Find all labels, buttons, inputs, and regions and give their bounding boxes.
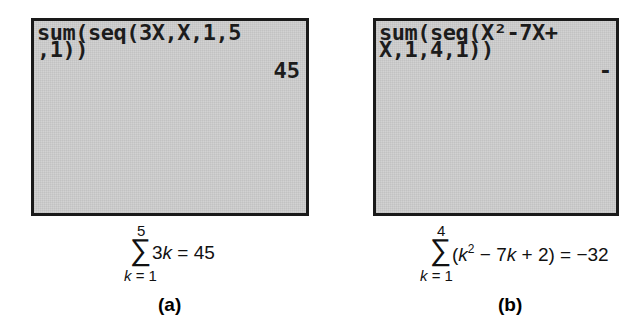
caption-b: (b): [498, 294, 522, 316]
screen-b-result: -: [599, 62, 612, 80]
formula-a-var: k: [163, 242, 173, 263]
formula-b-lower-limit: k = 1: [420, 267, 453, 284]
screen-a-result: 45: [274, 62, 301, 80]
formula-b-var-2: k: [507, 244, 517, 265]
screen-b-line-2: X,1,4,1)): [379, 41, 494, 58]
screen-a-line-2: ,1)): [37, 41, 88, 58]
caption-a: (a): [158, 294, 181, 316]
calculator-screen-a: sum(seq(3X,X,1,5 ,1)) 45: [31, 18, 309, 216]
formula-a-result: = 45: [172, 242, 215, 263]
formula-a-lower-limit: k = 1: [124, 267, 157, 284]
formula-b-lower-eq: = 1: [428, 267, 453, 284]
calculator-screen-b: sum(seq(X²-7X+ X,1,4,1)) -: [373, 18, 619, 216]
formula-b-sigma: ∑: [430, 235, 451, 265]
formula-b-middle: − 7: [475, 244, 507, 265]
formula-a-lower-eq: = 1: [132, 267, 157, 284]
formula-b-lower-var: k: [420, 267, 428, 284]
formula-a-coef: 3: [152, 242, 163, 263]
formula-b-expression: (k2 − 7k + 2) = −32: [452, 242, 609, 266]
formula-a-lower-var: k: [124, 267, 132, 284]
formula-a-sigma: ∑: [130, 235, 151, 265]
formula-b-var-1: k: [458, 244, 468, 265]
formula-b-exponent: 2: [468, 242, 475, 256]
formula-b-result: + 2) = −32: [516, 244, 608, 265]
formula-a-expression: 3k = 45: [152, 242, 215, 264]
